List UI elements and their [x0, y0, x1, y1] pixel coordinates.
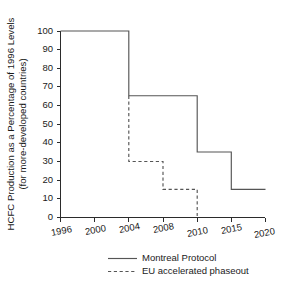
- y-tick-label: 30: [42, 155, 53, 166]
- x-tick-label: 2008: [152, 220, 175, 235]
- x-tick-label: 2015: [220, 221, 243, 236]
- x-axis-ticks: 1996 2000 2004 2008 2010 2015 2020: [50, 218, 276, 240]
- y-tick-label: 80: [42, 62, 53, 73]
- legend-item-montreal-protocol: Montreal Protocol: [108, 252, 216, 263]
- legend-label-montreal-protocol: Montreal Protocol: [142, 252, 216, 263]
- y-tick-label: 50: [42, 118, 53, 129]
- legend-label-eu-accelerated-phaseout: EU accelerated phaseout: [142, 265, 249, 276]
- series-eu-accelerated-phaseout: [129, 96, 197, 218]
- y-axis-title: HCFC Production as a Percentage of 1996 …: [5, 17, 28, 230]
- x-tick-label: 1996: [50, 223, 73, 238]
- y-tick-label: 0: [48, 211, 53, 222]
- y-tick-label: 100: [37, 25, 53, 36]
- x-tick-label: 2010: [186, 224, 209, 239]
- y-tick-label: 70: [42, 80, 53, 91]
- y-axis-ticks: 100 90 80 70 60 50 40 30 20 10 0: [37, 25, 60, 222]
- series-montreal-protocol: [61, 31, 266, 189]
- y-axis-title-line2: (for more-developed countries): [17, 58, 28, 189]
- y-tick-label: 60: [42, 99, 53, 110]
- chart-legend: Montreal Protocol EU accelerated phaseou…: [108, 252, 249, 276]
- y-tick-label: 10: [42, 192, 53, 203]
- y-tick-label: 20: [42, 174, 53, 185]
- y-axis-title-line1: HCFC Production as a Percentage of 1996 …: [5, 17, 16, 230]
- legend-item-eu-accelerated-phaseout: EU accelerated phaseout: [108, 265, 249, 276]
- x-tick-label: 2020: [253, 225, 276, 240]
- x-tick-label: 2000: [84, 222, 107, 237]
- y-tick-label: 90: [42, 43, 53, 54]
- x-tick-label: 2004: [118, 220, 141, 235]
- hcfc-phaseout-step-chart: HCFC Production as a Percentage of 1996 …: [0, 0, 282, 285]
- chart-canvas: HCFC Production as a Percentage of 1996 …: [0, 0, 282, 285]
- y-tick-label: 40: [42, 136, 53, 147]
